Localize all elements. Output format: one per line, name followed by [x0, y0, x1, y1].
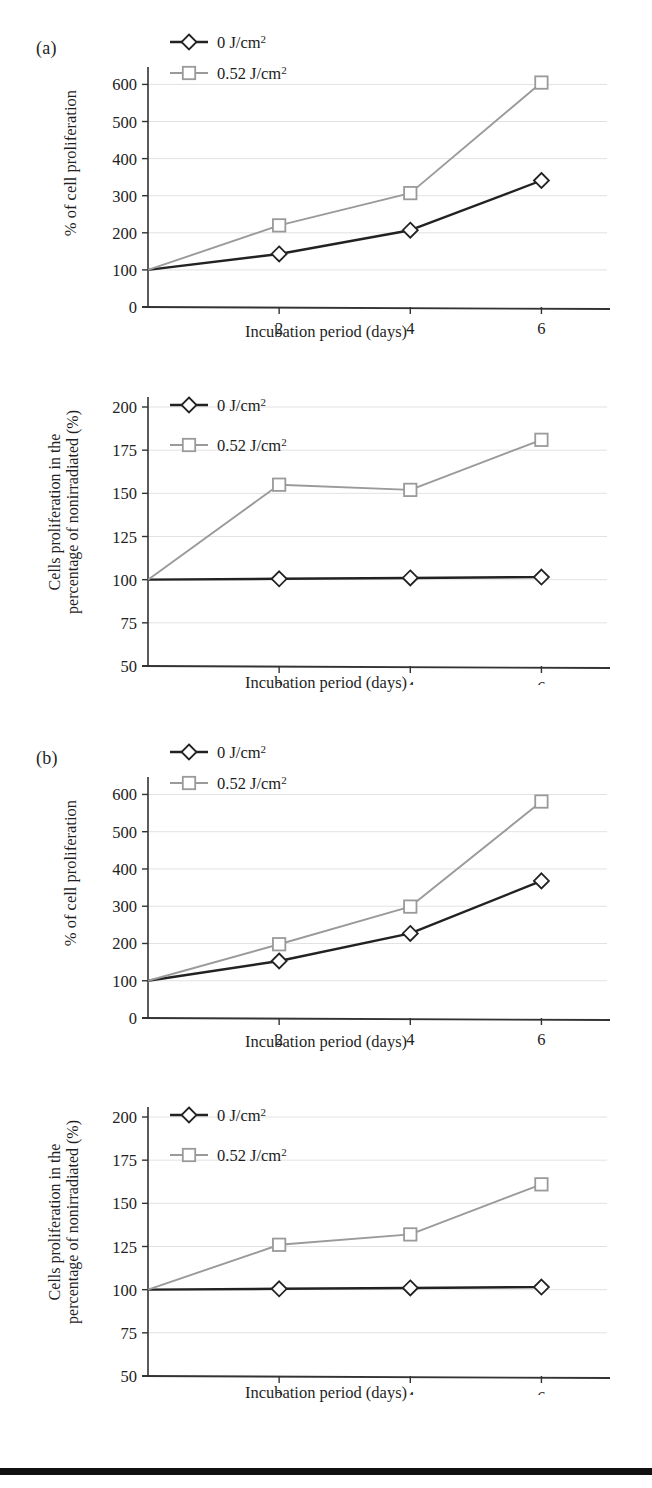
chart-b-bottom-plot: 50751001251501752002460 J/cm20.52 J/cm2	[0, 1085, 652, 1395]
data-point-diamond-marker	[272, 1281, 287, 1296]
chart-b-bottom: Cells proliferation in thepercentage of …	[0, 1085, 652, 1435]
legend-item-control[interactable]: 0 J/cm2	[170, 743, 266, 763]
ylabel-line: % of cell proliferation	[62, 90, 80, 236]
data-point-diamond-marker	[534, 873, 549, 888]
ylabel-line: percentage of nonirradiated (%)	[64, 410, 82, 614]
y-tick-label: 150	[112, 484, 137, 503]
y-tick-label: 75	[121, 1324, 138, 1343]
y-tick-label: 500	[112, 113, 137, 132]
legend-item-irradiated[interactable]: 0.52 J/cm2	[170, 774, 287, 794]
chart-a-bottom-xlabel: Incubation period (days)	[0, 673, 652, 693]
chart-a-top-xlabel: Incubation period (days)	[0, 322, 652, 342]
data-point-square-marker	[183, 777, 195, 789]
data-point-diamond-marker	[182, 745, 197, 760]
data-point-square-marker	[535, 434, 547, 446]
legend-label-superscript: 2	[261, 33, 267, 45]
series-control	[148, 570, 549, 587]
ylabel-line: % of cell proliferation	[62, 800, 80, 946]
data-point-square-marker	[273, 938, 285, 950]
data-point-square-marker	[273, 219, 285, 231]
series-irradiated	[148, 434, 548, 580]
legend-item-control[interactable]: 0 J/cm2	[170, 396, 266, 416]
data-point-diamond-marker	[182, 1108, 197, 1123]
legend-label-superscript: 2	[281, 774, 287, 786]
legend-item-irradiated[interactable]: 0.52 J/cm2	[170, 64, 287, 84]
y-tick-label: 75	[121, 614, 138, 633]
series-line	[148, 802, 541, 981]
figure-root: (a) (b) % of cell proliferation 01002003…	[0, 0, 652, 1488]
chart-b-top-plot: 01002003004005006002460 J/cm20.52 J/cm2	[0, 730, 652, 1050]
data-point-square-marker	[183, 67, 195, 79]
y-tick-label: 125	[112, 528, 137, 547]
ylabel-line: Cells proliferation in the	[46, 1120, 64, 1324]
series-control	[148, 1280, 549, 1297]
data-point-diamond-marker	[534, 1280, 549, 1295]
chart-b-bottom-xlabel: Incubation period (days)	[0, 1383, 652, 1403]
legend-label-superscript: 2	[261, 743, 267, 755]
series-line	[148, 881, 541, 981]
y-tick-label: 200	[112, 398, 137, 417]
data-point-square-marker	[404, 900, 416, 912]
series-irradiated	[148, 1178, 548, 1290]
legend-label: 0.52 J/cm	[217, 64, 281, 83]
legend: 0 J/cm20.52 J/cm2	[170, 33, 287, 84]
y-tick-label: 200	[112, 934, 137, 953]
data-point-square-marker	[183, 439, 195, 451]
data-point-square-marker	[273, 479, 285, 491]
data-point-diamond-marker	[534, 570, 549, 585]
y-tick-label: 200	[112, 224, 137, 243]
data-point-diamond-marker	[403, 570, 418, 585]
legend-label: 0 J/cm	[217, 396, 261, 415]
series-line	[148, 181, 541, 270]
legend-item-irradiated[interactable]: 0.52 J/cm2	[170, 436, 287, 456]
legend-label-superscript: 2	[281, 1146, 287, 1158]
y-tick-label: 125	[112, 1238, 137, 1257]
x-axis-line	[142, 307, 610, 309]
legend: 0 J/cm20.52 J/cm2	[170, 1106, 287, 1166]
x-axis-line	[142, 666, 610, 668]
data-point-square-marker	[535, 1178, 547, 1190]
legend-label: 0.52 J/cm	[217, 436, 281, 455]
y-tick-label: 100	[112, 972, 137, 991]
y-tick-label: 100	[112, 261, 137, 280]
chart-b-top: % of cell proliferation 0100200300400500…	[0, 730, 652, 1080]
legend-item-irradiated[interactable]: 0.52 J/cm2	[170, 1146, 287, 1166]
data-point-square-marker	[535, 76, 547, 88]
legend-label: 0 J/cm	[217, 743, 261, 762]
data-point-diamond-marker	[182, 35, 197, 50]
data-point-diamond-marker	[403, 926, 418, 941]
data-point-diamond-marker	[272, 953, 287, 968]
legend: 0 J/cm20.52 J/cm2	[170, 743, 287, 794]
data-point-square-marker	[183, 1149, 195, 1161]
ylabel-line: Cells proliferation in the	[46, 410, 64, 614]
y-tick-label: 400	[112, 860, 137, 879]
y-tick-label: 0	[129, 298, 137, 317]
ylabel-line: percentage of nonirradiated (%)	[64, 1120, 82, 1324]
y-tick-label: 100	[112, 1281, 137, 1300]
y-tick-label: 0	[129, 1009, 137, 1028]
chart-a-bottom: Cells proliferation in thepercentage of …	[0, 375, 652, 725]
legend-label-superscript: 2	[261, 396, 267, 408]
y-tick-label: 400	[112, 150, 137, 169]
y-tick-label: 175	[112, 441, 137, 460]
y-tick-label: 100	[112, 571, 137, 590]
y-tick-label: 300	[112, 187, 137, 206]
data-point-diamond-marker	[272, 571, 287, 586]
chart-b-top-ylabel-text: % of cell proliferation	[62, 800, 80, 946]
legend-label-superscript: 2	[261, 1106, 267, 1118]
legend: 0 J/cm20.52 J/cm2	[170, 396, 287, 456]
data-point-square-marker	[273, 1239, 285, 1251]
y-tick-label: 200	[112, 1108, 137, 1127]
data-point-square-marker	[404, 484, 416, 496]
data-point-square-marker	[535, 795, 547, 807]
y-tick-label: 175	[112, 1151, 137, 1170]
chart-b-top-xlabel: Incubation period (days)	[0, 1032, 652, 1052]
legend-item-control[interactable]: 0 J/cm2	[170, 33, 266, 53]
legend-label-superscript: 2	[281, 436, 287, 448]
legend-label: 0 J/cm	[217, 1106, 261, 1125]
legend-item-control[interactable]: 0 J/cm2	[170, 1106, 266, 1126]
legend-label: 0.52 J/cm	[217, 774, 281, 793]
data-point-square-marker	[404, 1228, 416, 1240]
y-tick-label: 300	[112, 897, 137, 916]
data-point-square-marker	[404, 187, 416, 199]
